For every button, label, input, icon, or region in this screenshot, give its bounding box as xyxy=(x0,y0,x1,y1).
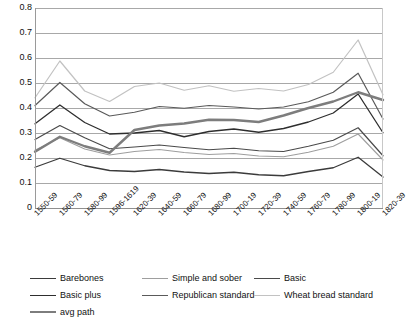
legend-swatch-line-icon xyxy=(30,278,56,279)
chart-plot-region: 0.80.70.60.50.40.30.20.10 xyxy=(0,0,392,212)
legend-swatch-line-icon xyxy=(142,295,168,296)
legend-label: avg path xyxy=(60,308,95,317)
y-axis-tick-label: 0.8 xyxy=(4,3,32,12)
legend-item[interactable]: Wheat bread standard xyxy=(254,289,373,301)
legend-label: Basic xyxy=(284,274,306,283)
legend-swatch-line-icon xyxy=(30,311,56,313)
legend-label: Barebones xyxy=(60,274,104,283)
y-axis-tick-label: 0.4 xyxy=(4,103,32,112)
legend-swatch-line-icon xyxy=(254,295,280,296)
legend-item[interactable]: Simple and sober xyxy=(142,272,242,284)
chart-legend: BarebonesSimple and soberBasicBasic plus… xyxy=(30,272,390,318)
y-axis-tick-label: 0.5 xyxy=(4,78,32,87)
legend-item[interactable]: Basic xyxy=(254,272,306,284)
y-axis-tick-label: 0.7 xyxy=(4,28,32,37)
legend-label: Simple and sober xyxy=(172,274,242,283)
legend-item[interactable]: Barebones xyxy=(30,272,104,284)
legend-label: Basic plus xyxy=(60,291,101,300)
x-axis-tick-labels: 1550-591560-791580-991596-16191620-39164… xyxy=(0,208,392,268)
y-axis-tick-label: 0.6 xyxy=(4,53,32,62)
legend-item[interactable]: Basic plus xyxy=(30,289,101,301)
legend-label: Wheat bread standard xyxy=(284,291,373,300)
legend-swatch-line-icon xyxy=(254,278,280,279)
legend-swatch-line-icon xyxy=(142,278,168,279)
legend-item[interactable]: Republican standard xyxy=(142,289,255,301)
y-axis-tick-labels: 0.80.70.60.50.40.30.20.10 xyxy=(0,0,32,212)
y-axis-tick-label: 0.2 xyxy=(4,153,32,162)
y-axis-tick-label: 0.1 xyxy=(4,178,32,187)
y-axis-tick-label: 0.3 xyxy=(4,128,32,137)
legend-item[interactable]: avg path xyxy=(30,306,95,318)
legend-label: Republican standard xyxy=(172,291,255,300)
plot-axis-frame xyxy=(35,8,383,208)
legend-swatch-line-icon xyxy=(30,295,56,296)
